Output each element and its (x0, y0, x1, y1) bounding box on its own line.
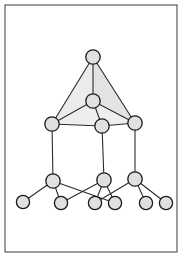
leaf-node-6 (159, 196, 172, 209)
leaf-node-2 (54, 196, 67, 209)
figure-border-frame (5, 5, 177, 252)
leaf-node-5 (139, 196, 152, 209)
mid-left-node (45, 117, 59, 131)
graph-diagram-canvas (0, 0, 185, 257)
leaf-node-4 (108, 196, 121, 209)
apex-node (86, 50, 100, 64)
inner-apex-node (86, 94, 100, 108)
leaf-node-1 (16, 195, 29, 208)
leaf-node-3 (88, 196, 101, 209)
low-center-node (97, 173, 111, 187)
low-left-node (46, 174, 60, 188)
mid-right-node (128, 116, 142, 130)
figure-root (0, 0, 185, 257)
mid-center-node (95, 119, 109, 133)
low-right-node (128, 172, 142, 186)
